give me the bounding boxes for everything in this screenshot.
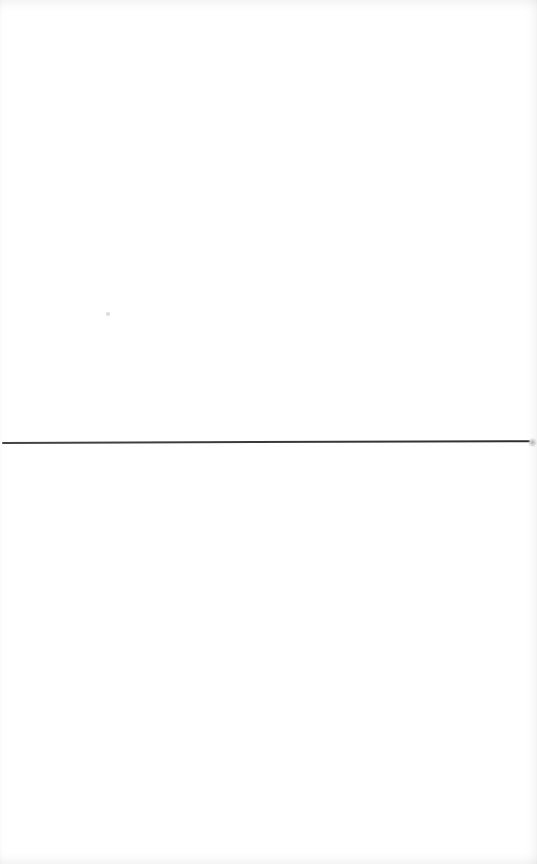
scan-speck [106, 312, 110, 316]
blank-page [0, 0, 537, 864]
divider-end-mark [528, 438, 537, 447]
horizontal-divider-line [2, 440, 530, 444]
